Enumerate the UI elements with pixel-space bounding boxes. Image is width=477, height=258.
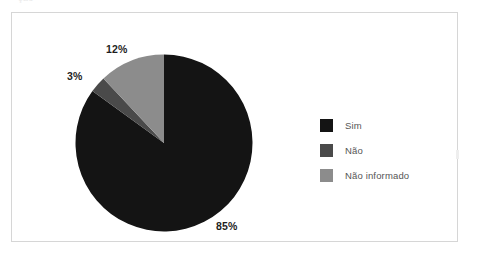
scan-artifact bbox=[456, 150, 459, 159]
pie-chart-svg bbox=[75, 54, 253, 232]
cropped-top-text-fragment: ção bbox=[18, 0, 34, 3]
legend-swatch-icon-sim bbox=[320, 119, 333, 132]
legend-label-nao-informado: Não informado bbox=[345, 170, 409, 181]
data-label-nao-informado: 12% bbox=[106, 43, 128, 55]
chart-legend: Sim Não Não informado bbox=[320, 113, 450, 188]
pie-slice-group bbox=[75, 55, 252, 232]
data-label-nao: 3% bbox=[67, 70, 83, 82]
legend-item-sim: Sim bbox=[320, 113, 450, 138]
legend-swatch-icon-nao-informado bbox=[320, 169, 333, 182]
legend-label-sim: Sim bbox=[345, 120, 362, 131]
legend-swatch-icon-nao bbox=[320, 144, 333, 157]
pie-chart bbox=[75, 54, 253, 232]
legend-item-nao-informado: Não informado bbox=[320, 163, 450, 188]
chart-frame: 12% 3% 85% Sim Não Não informado bbox=[11, 12, 458, 242]
data-label-sim: 85% bbox=[216, 220, 238, 232]
legend-label-nao: Não bbox=[345, 145, 363, 156]
legend-item-nao: Não bbox=[320, 138, 450, 163]
